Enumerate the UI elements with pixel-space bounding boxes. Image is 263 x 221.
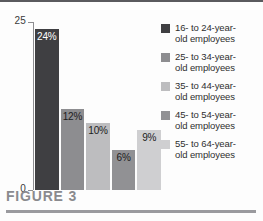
legend-item[interactable]: 35- to 44-year-old employees xyxy=(161,80,261,102)
legend-item-label: 25- to 34-year-old employees xyxy=(175,51,236,73)
y-axis-line xyxy=(33,22,34,190)
legend-item[interactable]: 45- to 54-year-old employees xyxy=(161,109,261,131)
bar-value-label: 24% xyxy=(37,29,56,42)
bar-value-label: 10% xyxy=(88,123,107,136)
top-divider xyxy=(0,0,263,2)
legend-item-label: 45- to 54-year-old employees xyxy=(175,109,236,131)
chart-legend: 16- to 24-year-old employees25- to 34-ye… xyxy=(161,22,261,167)
figure-caption: FIGURE 3 xyxy=(6,188,77,204)
bar-value-label: 9% xyxy=(142,130,156,143)
bar: 9% xyxy=(137,130,161,190)
bar-value-label: 6% xyxy=(117,150,131,163)
bar: 12% xyxy=(61,109,85,190)
bar-value-label: 12% xyxy=(63,109,82,122)
legend-item-label: 35- to 44-year-old employees xyxy=(175,80,236,102)
bottom-divider xyxy=(6,210,256,213)
bar: 10% xyxy=(86,123,110,190)
legend-item-label: 55- to 64-year-old employees xyxy=(175,138,236,160)
legend-item[interactable]: 16- to 24-year-old employees xyxy=(161,22,261,44)
y-axis-tick-max xyxy=(28,22,33,23)
legend-swatch-icon xyxy=(161,82,170,91)
legend-swatch-icon xyxy=(161,24,170,33)
legend-swatch-icon xyxy=(161,140,170,149)
legend-item-label: 16- to 24-year-old employees xyxy=(175,22,236,44)
legend-item[interactable]: 55- to 64-year-old employees xyxy=(161,138,261,160)
bar-chart-plot-area: 25 0 24%12%10%6%9% xyxy=(0,12,170,187)
y-axis-label-max: 25 xyxy=(0,15,26,26)
bar: 24% xyxy=(35,29,59,190)
legend-swatch-icon xyxy=(161,53,170,62)
figure-container: 25 0 24%12%10%6%9% 16- to 24-year-old em… xyxy=(0,0,263,221)
bar: 6% xyxy=(112,150,136,190)
bar-group: 24%12%10%6%9% xyxy=(35,22,161,190)
legend-item[interactable]: 25- to 34-year-old employees xyxy=(161,51,261,73)
legend-swatch-icon xyxy=(161,111,170,120)
